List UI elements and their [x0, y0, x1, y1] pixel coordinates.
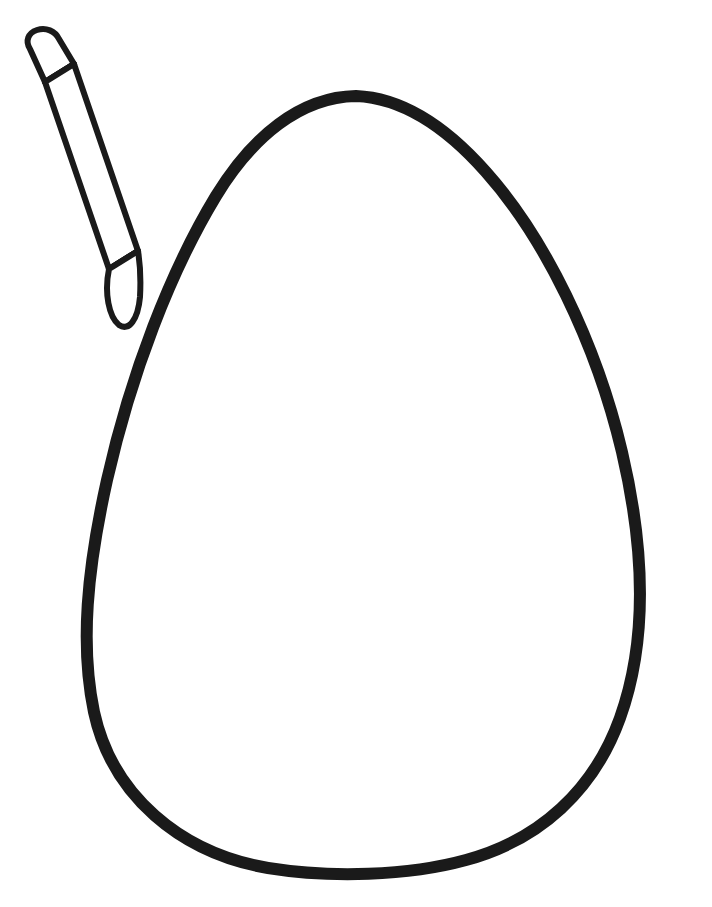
artwork-svg — [0, 0, 712, 907]
coloring-page-canvas — [0, 0, 712, 907]
paper-background — [0, 0, 712, 907]
